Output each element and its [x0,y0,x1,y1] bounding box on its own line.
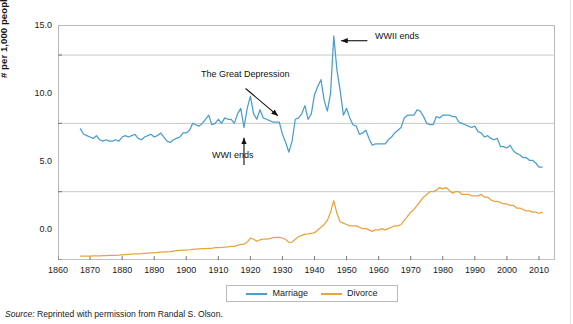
chart-legend: Marriage Divorce [226,285,398,302]
plot-canvas [58,25,555,260]
x-tick-label: 1940 [298,265,332,275]
y-tick-label: 10.0 [34,88,52,98]
source-note-text: Reprinted with permission from Randal S.… [35,309,223,319]
source-note-prefix: Source: [5,309,35,319]
x-tick-label: 1880 [105,265,139,275]
legend-swatch-divorce-icon [321,293,342,295]
y-axis-label: # per 1,000 people [0,0,9,78]
legend-swatch-marriage-icon [246,293,267,295]
x-tick-label: 1910 [201,265,235,275]
page-edge-rule [570,0,571,324]
x-tick-label: 1980 [426,265,460,275]
x-tick-label: 1990 [458,265,492,275]
x-tick-label: 1930 [266,265,300,275]
legend-label-divorce: Divorce [347,289,378,298]
x-tick-label: 2010 [522,265,556,275]
annotation-arrow-great-depression [246,89,278,116]
source-note: Source: Reprinted with permission from R… [5,309,223,319]
series-line-marriage [80,36,542,167]
legend-item-divorce[interactable]: Divorce [321,289,378,298]
x-tick-label: 1900 [169,265,203,275]
x-tick-label: 1890 [137,265,171,275]
x-axis-tick-labels: 1860 1870 1880 1890 1900 1910 1920 1930 … [58,263,555,277]
x-tick-label: 1970 [394,265,428,275]
x-tick-label: 1920 [234,265,268,275]
plot-area [58,25,555,260]
legend-item-marriage[interactable]: Marriage [246,289,308,298]
legend-label-marriage: Marriage [272,289,308,298]
y-axis-tick-labels: 15.0 10.0 5.0 0.0 [18,25,52,260]
annotation-wwii-ends: WWII ends [375,31,419,41]
y-tick-label: 5.0 [39,156,52,166]
annotation-wwi-ends: WWI ends [212,150,254,160]
annotation-great-depression: The Great Depression [201,69,290,79]
marriage-divorce-chart-figure: # per 1,000 people 15.0 10.0 5.0 0.0 186… [0,0,573,324]
x-tick-label: 1950 [330,265,364,275]
y-tick-label: 15.0 [34,20,52,30]
y-tick-label: 0.0 [39,224,52,234]
x-tick-label: 1860 [41,265,75,275]
x-tick-label: 2000 [490,265,524,275]
x-tick-label: 1870 [73,265,107,275]
series-line-divorce [80,188,542,257]
x-tick-label: 1960 [362,265,396,275]
